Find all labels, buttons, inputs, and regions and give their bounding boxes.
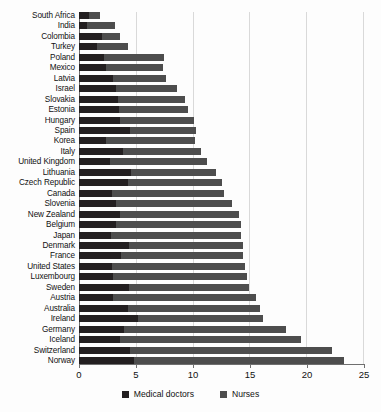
bar-row <box>79 273 363 280</box>
bar-segment-nurses <box>134 357 344 364</box>
category-label: France <box>0 252 75 259</box>
bar-segment-nurses <box>116 85 176 92</box>
bar-segment-medical-doctors <box>79 273 113 280</box>
bar-row <box>79 190 363 197</box>
x-tick-mark <box>136 364 137 368</box>
bar-segment-nurses <box>113 75 166 82</box>
bar-row <box>79 148 363 155</box>
category-label: Spain <box>0 127 75 134</box>
bar-segment-nurses <box>110 158 208 165</box>
bar-segment-medical-doctors <box>79 242 129 249</box>
bar-segment-nurses <box>138 315 263 322</box>
category-label: Colombia <box>0 33 75 40</box>
category-label: Korea <box>0 137 75 144</box>
bar-segment-medical-doctors <box>79 252 121 259</box>
bar-row <box>79 263 363 270</box>
bar-row <box>79 211 363 218</box>
x-tick-label: 25 <box>359 369 370 380</box>
bar-segment-nurses <box>120 211 239 218</box>
bar-row <box>79 336 363 343</box>
category-label: Slovakia <box>0 96 75 103</box>
bar-segment-medical-doctors <box>79 336 120 343</box>
bar-segment-medical-doctors <box>79 221 116 228</box>
x-tick-mark <box>364 364 365 368</box>
bar-rows <box>79 12 363 364</box>
category-label: United Kingdom <box>0 158 75 165</box>
bar-row <box>79 326 363 333</box>
bar-segment-medical-doctors <box>79 12 89 19</box>
legend-item[interactable]: Nurses <box>220 389 259 399</box>
bar-row <box>79 347 363 354</box>
bar-segment-medical-doctors <box>79 158 110 165</box>
bar-segment-medical-doctors <box>79 148 123 155</box>
bar-segment-medical-doctors <box>79 85 116 92</box>
category-label: Turkey <box>0 43 75 50</box>
bar-segment-medical-doctors <box>79 305 128 312</box>
bar-segment-medical-doctors <box>79 179 128 186</box>
bar-segment-nurses <box>116 221 241 228</box>
category-label: Switzerland <box>0 347 75 354</box>
bar-segment-medical-doctors <box>79 263 112 270</box>
category-label: Ireland <box>0 315 75 322</box>
bar-segment-nurses <box>128 179 222 186</box>
bar-segment-nurses <box>116 200 232 207</box>
bar-segment-nurses <box>97 43 128 50</box>
category-label: Sweden <box>0 284 75 291</box>
x-tick-label: 10 <box>188 369 199 380</box>
x-tick-label: 20 <box>302 369 313 380</box>
bar-row <box>79 284 363 291</box>
bar-row <box>79 169 363 176</box>
x-tick-mark <box>250 364 251 368</box>
bar-row <box>79 252 363 259</box>
bar-segment-nurses <box>119 106 188 113</box>
category-label: Lithuania <box>0 169 75 176</box>
bar-row <box>79 158 363 165</box>
bar-segment-nurses <box>121 252 243 259</box>
bar-segment-medical-doctors <box>79 117 120 124</box>
bar-row <box>79 75 363 82</box>
bar-segment-nurses <box>120 336 301 343</box>
legend-swatch-icon <box>122 391 129 398</box>
category-label: India <box>0 22 75 29</box>
bar-row <box>79 64 363 71</box>
category-label: Mexico <box>0 64 75 71</box>
category-label: United States <box>0 263 75 270</box>
bar-segment-medical-doctors <box>79 54 104 61</box>
x-tick-mark <box>79 364 80 368</box>
x-tick-mark <box>307 364 308 368</box>
bar-segment-medical-doctors <box>79 232 111 239</box>
bar-segment-medical-doctors <box>79 127 130 134</box>
bar-segment-medical-doctors <box>79 315 138 322</box>
bar-segment-nurses <box>131 169 216 176</box>
bar-row <box>79 96 363 103</box>
bar-segment-nurses <box>106 64 163 71</box>
bar-row <box>79 33 363 40</box>
category-label: Israel <box>0 85 75 92</box>
category-label: Poland <box>0 54 75 61</box>
category-label: Austria <box>0 294 75 301</box>
bar-row <box>79 43 363 50</box>
x-axis-ticks <box>79 364 364 368</box>
plot-area <box>79 12 363 364</box>
category-label: Belgium <box>0 221 75 228</box>
category-label: New Zealand <box>0 211 75 218</box>
bar-segment-nurses <box>112 190 224 197</box>
bar-segment-nurses <box>120 117 194 124</box>
bar-segment-nurses <box>102 33 120 40</box>
legend-item[interactable]: Medical doctors <box>122 389 194 399</box>
bar-segment-nurses <box>123 148 200 155</box>
bar-row <box>79 117 363 124</box>
bar-row <box>79 22 363 29</box>
category-label: Japan <box>0 232 75 239</box>
bar-row <box>79 232 363 239</box>
bar-segment-medical-doctors <box>79 211 120 218</box>
bar-segment-nurses <box>113 273 247 280</box>
bar-segment-nurses <box>130 347 332 354</box>
bar-segment-medical-doctors <box>79 357 134 364</box>
bar-row <box>79 137 363 144</box>
bar-row <box>79 221 363 228</box>
bar-segment-nurses <box>124 326 285 333</box>
bar-segment-medical-doctors <box>79 75 113 82</box>
bar-segment-nurses <box>89 12 100 19</box>
category-label: Czech Republic <box>0 179 75 186</box>
